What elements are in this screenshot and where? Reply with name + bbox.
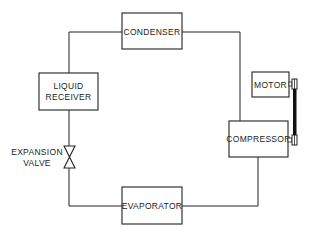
evaporator-label: EVAPORATOR [122, 201, 183, 211]
liquid-receiver-label-line1: LIQUID [53, 81, 83, 91]
compressor: COMPRESSOR [226, 121, 290, 157]
compressor-label: COMPRESSOR [226, 134, 290, 144]
refrigeration-cycle-diagram: CONDENSER LIQUID RECEIVER EXPANSION VALV… [0, 0, 317, 237]
belt [293, 89, 297, 135]
expansion-valve-label-line1: EXPANSION [11, 147, 63, 157]
pipe-evaporator-to-compressor [182, 157, 258, 206]
liquid-receiver: LIQUID RECEIVER [39, 73, 98, 110]
pipe-compressor-to-condenser [182, 32, 240, 121]
expansion-valve-icon [64, 146, 75, 168]
evaporator: EVAPORATOR [122, 187, 183, 224]
compressor-shaft [288, 138, 292, 142]
expansion-valve: EXPANSION VALVE [11, 146, 75, 168]
condenser: CONDENSER [122, 13, 182, 49]
piping [69, 32, 258, 206]
expansion-valve-label-line2: VALVE [23, 158, 51, 168]
pipe-valve-to-evaporator [69, 168, 122, 206]
pipe-condenser-to-receiver [69, 32, 122, 73]
condenser-label: CONDENSER [123, 27, 180, 37]
motor-label: MOTOR [254, 80, 287, 90]
liquid-receiver-label-line2: RECEIVER [46, 92, 92, 102]
motor: MOTOR [252, 72, 289, 97]
